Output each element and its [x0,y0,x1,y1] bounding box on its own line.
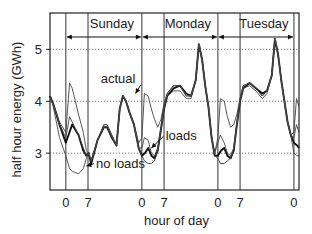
chart: 345 0707070 SundayMondayTuesday actuallo… [0,0,312,234]
x-tick-label: 7 [160,195,167,210]
x-tick-label: 0 [138,195,145,210]
y-tick-label: 3 [35,146,42,161]
annotation-no-loads: no loads [96,156,146,171]
annotation-loads: loads [166,128,198,143]
x-tick-label: 7 [84,195,91,210]
day-label-sunday: Sunday [90,16,135,31]
x-tick-label: 7 [236,195,243,210]
y-tick-label: 4 [35,94,42,109]
y-axis-label: half hour energy (GWh) [9,42,24,178]
x-tick-label: 0 [214,195,221,210]
series-lines [50,39,299,174]
day-label-monday: Monday [165,16,212,31]
day-spans: SundayMondayTuesday [67,16,293,37]
series-line-actual [50,39,299,164]
x-tick-labels: 0707070 [62,195,297,210]
annotation-actual: actual [101,71,136,86]
plot-frame [50,13,299,190]
day-label-tuesday: Tuesday [239,16,289,31]
annotation-arrow [136,85,141,93]
x-tick-label: 0 [62,195,69,210]
y-tick-label: 5 [35,42,42,57]
x-axis-label: hour of day [144,213,210,228]
x-tick-label: 0 [290,195,297,210]
y-tick-labels: 345 [35,42,42,161]
